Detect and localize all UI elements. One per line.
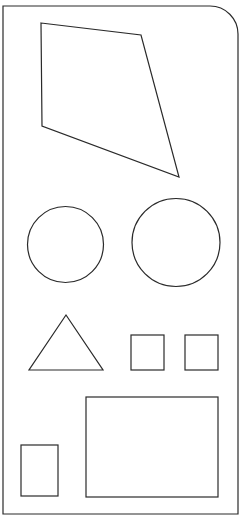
circle-small xyxy=(28,207,104,283)
rectangle-large xyxy=(86,397,218,497)
square-right xyxy=(185,335,218,370)
triangle xyxy=(29,315,103,370)
square-left xyxy=(131,335,164,370)
outer-frame xyxy=(3,6,238,514)
circle-large xyxy=(132,199,220,287)
rectangle-small xyxy=(21,445,58,496)
shapes-diagram xyxy=(0,0,243,518)
quadrilateral xyxy=(41,23,179,177)
